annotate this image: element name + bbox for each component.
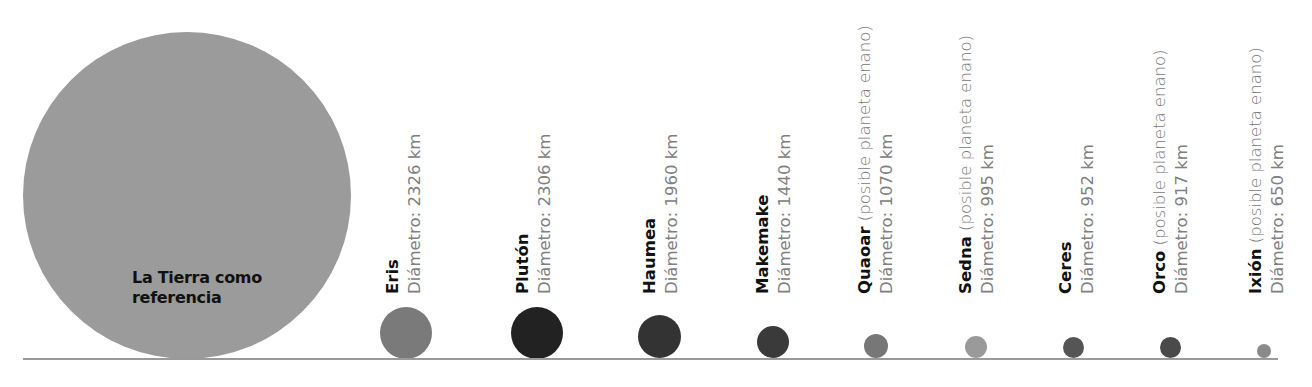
label-haumea: Haumea Diámetro: 1960 km <box>639 134 683 294</box>
planet-quaoar <box>864 334 888 358</box>
earth-circle <box>23 32 351 359</box>
planet-sedna <box>965 336 987 358</box>
earth-label: La Tierra como referencia <box>132 268 282 308</box>
planet-diameter: Diámetro: 1440 km <box>774 134 796 294</box>
planet-name: Eris <box>383 259 402 294</box>
label-quaoar: Quaoar (posible planeta enano) Diámetro:… <box>854 25 898 294</box>
label-sedna: Sedna (posible planeta enano) Diámetro: … <box>955 35 999 294</box>
planet-name: Orco <box>1150 251 1169 294</box>
planet-diameter: Diámetro: 952 km <box>1077 144 1099 294</box>
planet-eris <box>380 307 432 359</box>
planet-diameter: Diámetro: 2306 km <box>534 134 556 294</box>
label-pluton: Plutón Diámetro: 2306 km <box>512 134 556 294</box>
label-ixion: Ixión (posible planeta enano) Diámetro: … <box>1245 47 1289 294</box>
planet-name: Quaoar <box>855 226 874 294</box>
planet-name: Ceres <box>1056 242 1075 294</box>
label-orco: Orco (posible planeta enano) Diámetro: 9… <box>1149 50 1193 294</box>
baseline <box>23 358 1278 360</box>
earth-label-line2: referencia <box>132 288 282 308</box>
planet-note: (posible planeta enano) <box>956 35 975 236</box>
planet-diameter: Diámetro: 995 km <box>977 35 999 294</box>
planet-name: Plutón <box>513 234 532 294</box>
planet-orco <box>1160 337 1181 358</box>
planet-note: (posible planeta enano) <box>1246 47 1265 248</box>
planet-diameter: Diámetro: 1070 km <box>876 25 898 294</box>
planet-name: Makemake <box>753 195 772 294</box>
label-makemake: Makemake Diámetro: 1440 km <box>752 134 796 294</box>
planet-diameter: Diámetro: 917 km <box>1171 50 1193 294</box>
label-ceres: Ceres Diámetro: 952 km <box>1055 144 1099 294</box>
label-eris: Eris Diámetro: 2326 km <box>382 134 426 294</box>
planet-ixion <box>1257 344 1271 358</box>
earth-label-line1: La Tierra como <box>132 268 282 288</box>
planet-diameter: Diámetro: 2326 km <box>404 134 426 294</box>
planet-haumea <box>638 315 681 358</box>
planet-note: (posible planeta enano) <box>1150 50 1169 251</box>
planet-note: (posible planeta enano) <box>855 25 874 226</box>
planet-pluton <box>511 307 563 359</box>
planet-name: Haumea <box>640 218 659 294</box>
planet-ceres <box>1063 337 1084 358</box>
planet-diameter: Diámetro: 650 km <box>1267 47 1289 294</box>
planet-name: Ixión <box>1246 248 1265 294</box>
planet-name: Sedna <box>956 236 975 294</box>
planet-makemake <box>757 326 789 358</box>
planet-diameter: Diámetro: 1960 km <box>661 134 683 294</box>
